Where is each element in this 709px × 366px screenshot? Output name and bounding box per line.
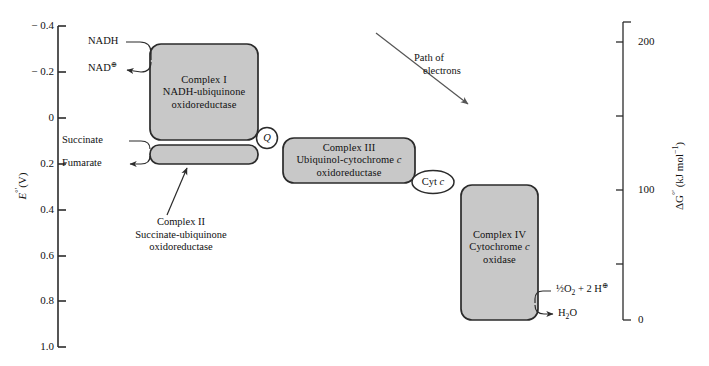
path-of-electrons-label: Path of electrons (414, 51, 461, 77)
diagram-vector-layer (0, 0, 709, 366)
complex-1-box (150, 44, 258, 140)
proton-charge: ⊕ (602, 281, 608, 290)
right-axis-tick-0: 200 (638, 35, 655, 47)
left-axis-tick-6: 0.8 (40, 294, 54, 306)
right-axis-tick-1: 100 (638, 183, 655, 195)
left-axis-tick-7: 1.0 (40, 340, 54, 352)
right-axis-title: ΔG°′ (kJ mol−1) (673, 111, 685, 241)
left-axis-tick-1: − 0.2 (31, 65, 54, 77)
figure-canvas: − 0.4 − 0.2 0 0.2 0.4 0.6 0.8 1.0 E°′(V)… (0, 0, 709, 366)
complex-2-line1: Complex II (83, 216, 279, 229)
complex-2-label: Complex II Succinate-ubiquinone oxidored… (83, 216, 279, 254)
water-o: O (569, 307, 577, 318)
right-axis (616, 22, 631, 320)
path-line1: Path of (414, 51, 461, 64)
left-axis-tick-3: 0.2 (40, 157, 54, 169)
water-label: H2O (558, 307, 577, 318)
complex-3-box (283, 138, 415, 183)
q-letter: Q (263, 132, 271, 143)
oxygen-proton-label: ½O2 + 2 H⊕ (556, 283, 608, 294)
oxygen-half: ½ (556, 283, 564, 294)
left-axis (58, 26, 66, 347)
nad-charge: ⊕ (111, 60, 117, 69)
nadh-label: NADH (88, 35, 118, 46)
right-axis-tick-2: 0 (638, 313, 644, 325)
left-axis-tick-0: − 0.4 (31, 19, 54, 31)
complex-4-box (461, 185, 538, 320)
oxygen-plus-protons: + 2 H (575, 283, 602, 294)
succinate-label: Succinate (62, 134, 103, 145)
path-line2: electrons (423, 64, 461, 77)
complex-2-line2: Succinate-ubiquinone (83, 229, 279, 242)
complex-2-line3: oxidoreductase (83, 241, 279, 254)
left-axis-tick-4: 0.4 (40, 203, 54, 215)
nad-text: NAD (88, 62, 111, 73)
left-axis-title: E°′(V) (16, 156, 28, 216)
cytc-text: Cyt (422, 176, 440, 187)
water-h: H (558, 307, 566, 318)
ubiquinone-q-label: Q (257, 132, 277, 143)
complex-2-box (150, 145, 258, 164)
nad-plus-label: NAD⊕ (88, 62, 117, 73)
cytc-italic: c (440, 176, 445, 187)
fumarate-label: Fumarate (62, 157, 102, 168)
left-axis-tick-2: 0 (49, 111, 55, 123)
left-axis-tick-5: 0.6 (40, 249, 54, 261)
cytochrome-c-label: Cyt c (412, 176, 454, 187)
